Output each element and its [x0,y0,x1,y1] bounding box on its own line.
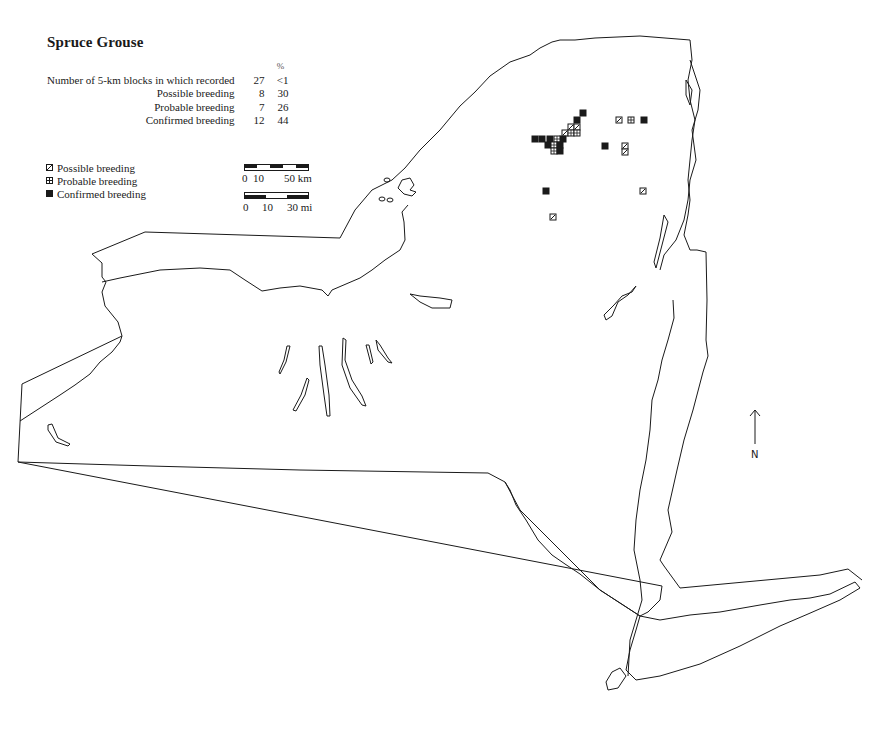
possible-breeding-square-icon [616,117,622,123]
possible-breeding-square-icon [550,214,556,220]
confirmed-breeding-square-icon [532,136,538,142]
probable-breeding-square-icon [551,142,557,148]
confirmed-breeding-square-icon [641,117,647,123]
confirmed-breeding-square-icon [545,142,551,148]
confirmed-breeding-square-icon [574,117,580,123]
confirmed-breeding-square-icon [557,148,563,154]
possible-breeding-square-icon [562,130,568,136]
probable-breeding-square-icon [568,130,574,136]
confirmed-breeding-square-icon [557,142,563,148]
probable-breeding-square-icon [628,117,634,123]
possible-breeding-square-icon [640,188,646,194]
possible-breeding-square-icon [574,124,580,130]
breeding-records-layer [0,0,894,741]
probable-breeding-square-icon [554,136,560,142]
confirmed-breeding-square-icon [543,188,549,194]
confirmed-breeding-square-icon [602,143,608,149]
confirmed-breeding-square-icon [580,110,586,116]
possible-breeding-square-icon [622,149,628,155]
confirmed-breeding-square-icon [539,136,545,142]
confirmed-breeding-square-icon [560,136,566,142]
possible-breeding-square-icon [622,143,628,149]
confirmed-breeding-square-icon [547,136,553,142]
probable-breeding-square-icon [551,148,557,154]
possible-breeding-square-icon [568,124,574,130]
probable-breeding-square-icon [574,130,580,136]
